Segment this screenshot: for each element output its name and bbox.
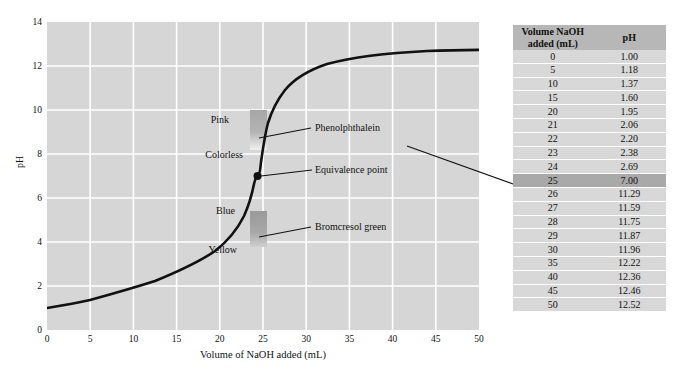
titration-data-table: Volume NaOH added (mL) pH 01.0051.18101.… (513, 25, 666, 312)
y-axis-title: pH (14, 156, 25, 168)
x-tick-25: 25 (258, 334, 268, 344)
colorless-label: Colorless (205, 149, 243, 160)
table-row: 3512.22 (513, 256, 666, 270)
cell-ph: 7.00 (593, 174, 666, 188)
y-tick-14: 14 (20, 17, 42, 27)
cell-ph: 11.59 (593, 201, 666, 215)
x-tick-15: 15 (172, 334, 182, 344)
x-tick-45: 45 (431, 334, 441, 344)
table-row: 242.69 (513, 160, 666, 174)
table-row: 101.37 (513, 77, 666, 91)
x-tick-10: 10 (129, 334, 139, 344)
table-row: 2811.75 (513, 215, 666, 229)
table-row: 2911.87 (513, 229, 666, 243)
cell-ph: 1.18 (593, 63, 666, 77)
cell-volume: 22 (513, 132, 593, 146)
y-tick-4: 4 (20, 237, 42, 247)
table-row: 01.00 (513, 50, 666, 63)
column-header-volume-line2: added (mL) (528, 38, 578, 49)
equivalence-point-annotation: Equivalence point (315, 164, 387, 175)
x-tick-30: 30 (301, 334, 311, 344)
y-tick-0: 0 (20, 325, 42, 335)
cell-volume: 30 (513, 243, 593, 257)
cell-volume: 21 (513, 118, 593, 132)
cell-ph: 2.06 (593, 118, 666, 132)
titration-chart: Pink Colorless Blue Yellow Phenolphthale… (47, 22, 479, 330)
cell-ph: 2.69 (593, 160, 666, 174)
pink-label: Pink (211, 114, 229, 125)
cell-volume: 35 (513, 256, 593, 270)
table-row: 4512.46 (513, 284, 666, 298)
table-row: 212.06 (513, 118, 666, 132)
y-tick-10: 10 (20, 105, 42, 115)
cell-volume: 0 (513, 50, 593, 63)
cell-volume: 24 (513, 160, 593, 174)
cell-volume: 25 (513, 174, 593, 188)
cell-ph: 11.96 (593, 243, 666, 257)
bromcresol-green-band (250, 211, 267, 247)
cell-ph: 11.29 (593, 187, 666, 201)
column-header-volume-line1: Volume NaOH (521, 26, 584, 37)
x-tick-0: 0 (45, 334, 50, 344)
x-tick-50: 50 (474, 334, 484, 344)
cell-ph: 2.38 (593, 146, 666, 160)
cell-volume: 45 (513, 284, 593, 298)
table-row: 222.20 (513, 132, 666, 146)
cell-ph: 1.60 (593, 91, 666, 105)
column-header-volume: Volume NaOH added (mL) (513, 25, 593, 50)
table-row: 232.38 (513, 146, 666, 160)
cell-ph: 12.22 (593, 256, 666, 270)
phenolphthalein-annotation: Phenolphthalein (315, 122, 380, 133)
bromcresol-green-annotation: Bromcresol green (315, 221, 386, 232)
blue-label: Blue (216, 205, 235, 216)
cell-volume: 23 (513, 146, 593, 160)
cell-volume: 5 (513, 63, 593, 77)
cell-volume: 15 (513, 91, 593, 105)
cell-ph: 12.52 (593, 298, 666, 312)
table-row-equivalence: 257.00 (513, 174, 666, 188)
cell-ph: 1.95 (593, 105, 666, 119)
cell-volume: 29 (513, 229, 593, 243)
table-row: 51.18 (513, 63, 666, 77)
cell-volume: 27 (513, 201, 593, 215)
cell-volume: 40 (513, 270, 593, 284)
x-tick-5: 5 (88, 334, 93, 344)
cell-ph: 11.87 (593, 229, 666, 243)
table-row: 2611.29 (513, 187, 666, 201)
cell-volume: 50 (513, 298, 593, 312)
cell-volume: 28 (513, 215, 593, 229)
table-body: 01.0051.18101.37151.60201.95212.06222.20… (513, 50, 666, 312)
table-row: 2711.59 (513, 201, 666, 215)
equivalence-point-dot (254, 172, 262, 180)
table-row: 151.60 (513, 91, 666, 105)
x-tick-40: 40 (388, 334, 398, 344)
table-row: 4012.36 (513, 270, 666, 284)
y-tick-2: 2 (20, 281, 42, 291)
table-row: 5012.52 (513, 298, 666, 312)
x-axis-title: Volume of NaOH added (mL) (47, 349, 479, 360)
yellow-label: Yellow (209, 244, 237, 255)
cell-ph: 1.00 (593, 50, 666, 63)
table-row: 3011.96 (513, 243, 666, 257)
cell-ph: 2.20 (593, 132, 666, 146)
cell-ph: 1.37 (593, 77, 666, 91)
titration-figure: Pink Colorless Blue Yellow Phenolphthale… (0, 0, 691, 373)
chart-svg (47, 22, 479, 330)
cell-volume: 20 (513, 105, 593, 119)
x-tick-20: 20 (215, 334, 225, 344)
y-tick-12: 12 (20, 61, 42, 71)
cell-ph: 11.75 (593, 215, 666, 229)
table-header-row: Volume NaOH added (mL) pH (513, 25, 666, 50)
y-tick-6: 6 (20, 193, 42, 203)
cell-volume: 10 (513, 77, 593, 91)
cell-ph: 12.36 (593, 270, 666, 284)
table-row: 201.95 (513, 105, 666, 119)
cell-ph: 12.46 (593, 284, 666, 298)
equivalence-point-leader (261, 170, 312, 176)
cell-volume: 26 (513, 187, 593, 201)
column-header-ph: pH (593, 25, 666, 50)
x-tick-35: 35 (345, 334, 355, 344)
